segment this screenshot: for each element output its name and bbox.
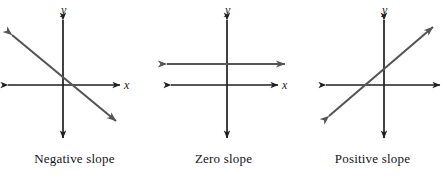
- slope-types-figure: y x Negative slope y x Zero slope: [0, 0, 447, 179]
- panel-zero-slope: y x Zero slope: [149, 0, 298, 179]
- y-axis-label: y: [382, 4, 387, 16]
- x-axis-label: x: [124, 79, 129, 91]
- negative-slope-graph: [0, 0, 149, 145]
- positive-slope-line: [329, 27, 433, 116]
- x-axis-label: x: [282, 79, 287, 91]
- caption-negative-slope: Negative slope: [0, 152, 149, 166]
- y-axis-label: y: [225, 4, 230, 16]
- positive-slope-graph: [298, 0, 447, 145]
- panel-negative-slope: y x Negative slope: [0, 0, 149, 179]
- caption-positive-slope: Positive slope: [298, 152, 447, 166]
- negative-slope-line: [12, 35, 116, 121]
- caption-zero-slope: Zero slope: [149, 152, 298, 166]
- y-axis-label: y: [61, 4, 66, 16]
- zero-slope-graph: [149, 0, 298, 145]
- panel-positive-slope: y Positive slope: [298, 0, 447, 179]
